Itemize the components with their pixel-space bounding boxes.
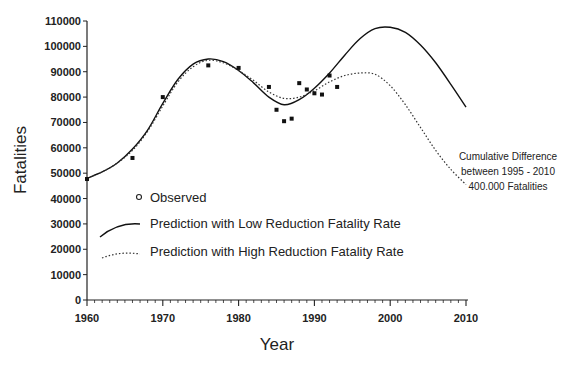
y-tick-label: 10000	[50, 269, 81, 281]
x-tick-label: 1960	[75, 312, 99, 324]
y-tick-label: 90000	[50, 66, 81, 78]
y-tick-label: 110000	[45, 15, 81, 27]
x-axis-title: Year	[260, 335, 295, 354]
legend-high-label: Prediction with High Reduction Fatality …	[150, 244, 404, 259]
y-tick-label: 20000	[50, 243, 81, 255]
observed-points	[85, 63, 339, 181]
low-reduction-prediction-line	[87, 27, 466, 178]
annotation-line-2: between 1995 - 2010	[461, 166, 555, 177]
cumulative-difference-annotation: Cumulative Difference between 1995 - 201…	[459, 151, 558, 192]
observed-point	[275, 108, 279, 112]
x-tick-label: 1970	[151, 312, 175, 324]
observed-point	[290, 117, 294, 121]
y-tick-label: 100000	[44, 40, 81, 52]
y-tick-label: 80000	[50, 91, 81, 103]
annotation-line-1: Cumulative Difference	[459, 151, 558, 162]
legend-low-label: Prediction with Low Reduction Fatality R…	[150, 216, 401, 231]
y-tick-label: 50000	[50, 167, 81, 179]
y-tick-label: 60000	[50, 142, 81, 154]
x-ticks: 196019701980199020002010	[75, 300, 478, 324]
x-tick-label: 2000	[378, 312, 402, 324]
observed-point	[305, 87, 309, 91]
observed-point	[85, 177, 89, 181]
observed-point	[206, 63, 210, 67]
y-axis-title: Fatalities	[11, 126, 30, 194]
observed-point	[161, 95, 165, 99]
x-tick-label: 1980	[226, 312, 250, 324]
observed-point	[335, 85, 339, 89]
observed-point	[130, 156, 134, 160]
observed-marker-icon	[137, 195, 142, 200]
fatalities-chart: 0100002000030000400005000060000700008000…	[0, 0, 571, 367]
observed-point	[320, 93, 324, 97]
y-ticks: 0100002000030000400005000060000700008000…	[44, 15, 87, 306]
solid-line-icon	[100, 224, 140, 237]
dotted-line-icon	[102, 253, 140, 258]
y-tick-label: 0	[75, 294, 81, 306]
high-reduction-prediction-line	[87, 60, 466, 184]
y-tick-label: 40000	[50, 193, 81, 205]
axes: 0100002000030000400005000060000700008000…	[44, 15, 478, 324]
annotation-line-3: 400.000 Fatalities	[469, 181, 548, 192]
observed-point	[328, 74, 332, 78]
y-tick-label: 70000	[50, 116, 81, 128]
observed-point	[312, 91, 316, 95]
legend-observed-label: Observed	[150, 190, 206, 205]
y-tick-label: 30000	[50, 218, 81, 230]
observed-point	[282, 119, 286, 123]
observed-point	[267, 85, 271, 89]
observed-point	[297, 81, 301, 85]
x-tick-label: 1990	[302, 312, 326, 324]
series-layer	[85, 27, 466, 185]
x-tick-label: 2010	[454, 312, 478, 324]
observed-point	[237, 66, 241, 70]
legend: Observed Prediction with Low Reduction F…	[100, 190, 404, 259]
